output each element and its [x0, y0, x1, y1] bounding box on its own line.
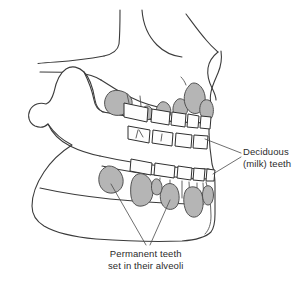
label-deciduous-line-1: Deciduous [243, 146, 291, 158]
temporal-edge-line [104, 10, 120, 56]
deciduous-tooth-lower-incisor-2 [206, 169, 215, 181]
permanent-tooth-bud-lower-incisor-1 [203, 186, 214, 205]
deciduous-crown-upper-2 [152, 130, 173, 146]
permanent-tooth-bud-lower-molar-3 [152, 179, 163, 195]
leader-line-deciduous-lower [213, 157, 241, 174]
orbital-rim-line [142, 10, 182, 57]
label-deciduous-line-2: (milk) teeth [243, 158, 291, 170]
deciduous-crown-upper-3 [175, 133, 192, 148]
permanent-tooth-bud-lower-premolar-2 [184, 187, 203, 217]
deciduous-tooth-upper-canine [171, 112, 186, 127]
deciduous-tooth-upper-molar-2 [151, 109, 170, 125]
nasal-bridge-line [186, 14, 218, 52]
label-permanent-line-1: Permanent teeth [108, 248, 183, 260]
skull-jaw-illustration [0, 0, 302, 282]
label-permanent-line-2: set in their alveoli [108, 260, 183, 272]
permanent-tooth-bud-lower-premolar-1 [160, 184, 179, 210]
label-permanent-teeth: Permanent teeth set in their alveoli [108, 248, 183, 271]
deciduous-crown-upper-4 [193, 135, 208, 149]
canine-fossa-mark [181, 77, 186, 85]
label-deciduous-teeth: Deciduous (milk) teeth [243, 146, 291, 169]
deciduous-tooth-upper-incisor-1 [187, 114, 199, 128]
deciduous-tooth-upper-incisor-2 [200, 116, 211, 129]
deciduous-tooth-lower-canine [177, 166, 192, 180]
zygomatic-arch-upper [38, 56, 104, 64]
permanent-tooth-bud-lower-molar-2 [131, 174, 153, 207]
deciduous-tooth-lower-molar-2 [154, 163, 175, 178]
anatomical-figure: Deciduous (milk) teeth Permanent teeth s… [0, 0, 302, 282]
deciduous-tooth-lower-incisor-1 [193, 168, 205, 181]
